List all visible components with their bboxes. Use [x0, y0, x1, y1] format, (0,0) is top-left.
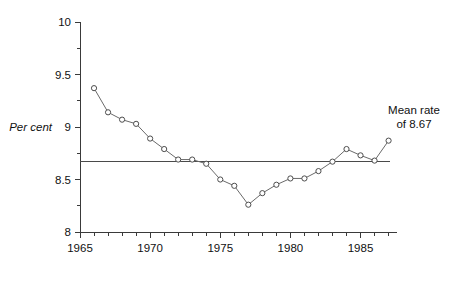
x-tick-label: 1970 [137, 242, 163, 254]
data-point-marker [316, 169, 321, 174]
y-tick-label: 8.5 [55, 174, 71, 186]
data-point-marker [134, 121, 139, 126]
y-axis-tick-labels: 88.599.510 [55, 16, 71, 238]
data-point-marker [190, 157, 195, 162]
data-point-marker [260, 191, 265, 196]
data-point-marker [232, 183, 237, 188]
x-tick-label: 1975 [207, 242, 233, 254]
y-tick-label: 9.5 [55, 69, 71, 81]
y-tick-label: 9 [65, 121, 71, 133]
data-point-marker [288, 176, 293, 181]
y-axis-major-ticks [75, 22, 80, 232]
data-point-marker [105, 110, 110, 115]
chart-container: 88.599.510 19651970197519801985 Per cent… [0, 0, 449, 282]
y-axis-group: 88.599.510 [55, 16, 80, 238]
data-point-marker [246, 202, 251, 207]
y-axis-title: Per cent [9, 121, 53, 133]
data-point-marker [302, 176, 307, 181]
x-axis-group: 19651970197519801985 [67, 232, 397, 254]
data-point-marker [386, 138, 391, 143]
mean-rate-annotation-line1: Mean rate [388, 104, 440, 116]
data-point-marker [176, 157, 181, 162]
x-tick-label: 1980 [278, 242, 304, 254]
y-tick-label: 10 [58, 16, 71, 28]
data-point-marker [148, 136, 153, 141]
line-chart: 88.599.510 19651970197519801985 Per cent… [0, 0, 449, 282]
x-axis-ticks [80, 232, 389, 238]
series-markers-rate [91, 86, 391, 208]
y-tick-label: 8 [65, 226, 71, 238]
data-point-marker [119, 117, 124, 122]
data-point-marker [91, 86, 96, 91]
data-point-marker [358, 153, 363, 158]
data-point-marker [344, 146, 349, 151]
data-point-marker [204, 161, 209, 166]
mean-rate-annotation-line2: of 8.67 [396, 118, 431, 130]
x-tick-label: 1965 [67, 242, 93, 254]
data-point-marker [218, 177, 223, 182]
data-point-marker [274, 182, 279, 187]
x-tick-label: 1985 [348, 242, 374, 254]
x-axis-tick-labels: 19651970197519801985 [67, 242, 373, 254]
data-point-marker [372, 158, 377, 163]
data-point-marker [330, 159, 335, 164]
data-point-marker [162, 146, 167, 151]
series-line-rate [94, 88, 389, 205]
